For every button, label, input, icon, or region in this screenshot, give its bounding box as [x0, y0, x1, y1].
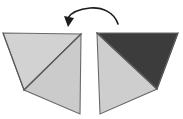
right-folded-paper — [97, 33, 178, 114]
left-folded-paper — [3, 33, 81, 114]
flip-rotation-arrow-icon — [64, 8, 118, 27]
diagram-root — [0, 0, 183, 119]
rotation-arrow-head — [64, 16, 74, 27]
paper-folding-figure — [0, 0, 183, 119]
rotation-arrow-arc — [68, 8, 118, 24]
